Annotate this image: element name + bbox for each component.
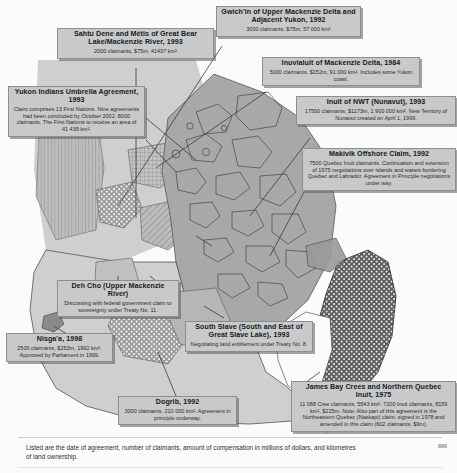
callout-nisgaa[interactable]: Nisga'a, 1998 2500 claimants, $253m, 199… (6, 333, 113, 362)
callout-gwichin-detail: 3000 claimants, $75m, 57 000 km² (221, 26, 356, 33)
callout-inuit-nwt[interactable]: Inuit of NWT (Nunavut), 1993 17500 claim… (296, 96, 456, 125)
callout-yukon-title: Yukon Indians Umbrella Agreement, 1993 (13, 89, 140, 105)
callout-yukon-detail: Claim comprises 13 First Nations. Nine a… (13, 106, 140, 133)
callout-makivik[interactable]: Makivik Offshore Claim, 1992 7500 Quebec… (302, 148, 456, 191)
figure-footnote: Listed are the date of agreement, number… (26, 443, 356, 462)
callout-makivik-detail: 7500 Quebec Inuit claimants. Continuatio… (307, 160, 451, 187)
corner-mark (438, 444, 447, 448)
callout-nisgaa-title: Nisga'a, 1998 (11, 336, 108, 344)
callout-gwichin-title: Gwich'in of Upper Mackenzie Delta and Ad… (221, 9, 356, 25)
callout-dogrib-title: Dogrib, 1992 (123, 399, 232, 407)
footer-divider-bottom (18, 467, 442, 468)
callout-james-bay-detail: 11 088 Cree claimants, 5543 km². 7200 In… (296, 401, 451, 428)
callout-dehcho[interactable]: Deh Cho (Upper Mackenzie River) Discussi… (57, 280, 179, 317)
callout-dogrib[interactable]: Dogrib, 1992 3000 claimants, 210 000 km²… (118, 396, 237, 425)
callout-south-slave-detail: Negotiating land entitlement under Treat… (190, 341, 308, 348)
callout-south-slave[interactable]: South Slave (South and East of Great Sla… (185, 321, 313, 352)
callout-inuvialuit[interactable]: Inuvialuit of Mackenzie Delta, 1984 5000… (262, 57, 420, 86)
callout-sahtu-title: Sahtu Dene and Métis of Great Bear Lake/… (62, 31, 209, 47)
callout-james-bay[interactable]: James Bay Crees and Northern Quebec Inui… (291, 381, 456, 432)
callout-dogrib-detail: 3000 claimants, 210 000 km². Agreement i… (123, 408, 232, 421)
callout-inuit-nwt-title: Inuit of NWT (Nunavut), 1993 (301, 99, 451, 107)
callout-james-bay-title: James Bay Crees and Northern Quebec Inui… (296, 384, 451, 400)
callout-inuvialuit-detail: 5000 claimants, $152m, 91 000 km². Inclu… (267, 69, 415, 82)
callout-nisgaa-detail: 2500 claimants, $253m, 1992 km². Approve… (11, 345, 108, 358)
callout-sahtu-detail: 2000 claimants, $75m, 41437 km² (62, 48, 209, 55)
callout-inuit-nwt-detail: 17500 claimants, $1173m, 1 900 000 km². … (301, 108, 451, 121)
callout-sahtu[interactable]: Sahtu Dene and Métis of Great Bear Lake/… (57, 28, 214, 59)
footer-divider-top (18, 437, 442, 438)
callout-gwichin[interactable]: Gwich'in of Upper Mackenzie Delta and Ad… (216, 6, 361, 37)
map-figure: Sahtu Dene and Métis of Great Bear Lake/… (0, 0, 457, 473)
callout-dehcho-title: Deh Cho (Upper Mackenzie River) (62, 283, 174, 299)
callout-inuvialuit-title: Inuvialuit of Mackenzie Delta, 1984 (267, 60, 415, 68)
callout-south-slave-title: South Slave (South and East of Great Sla… (190, 324, 308, 340)
callout-makivik-title: Makivik Offshore Claim, 1992 (307, 151, 451, 159)
callout-dehcho-detail: Discussing with federal government claim… (62, 300, 174, 313)
callout-yukon[interactable]: Yukon Indians Umbrella Agreement, 1993 C… (8, 86, 145, 137)
